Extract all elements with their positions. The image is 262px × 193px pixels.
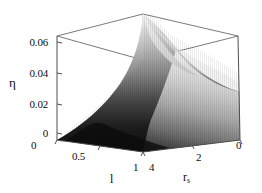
y-tick-label-4: 4 (149, 162, 154, 173)
z-axis-ticks (57, 42, 62, 134)
x-axis-title: l (110, 173, 113, 185)
x-tick-label-0: 0 (31, 140, 36, 151)
x-tick-label-0.5: 0.5 (72, 151, 85, 162)
z-tick-label-0.04: 0.04 (30, 68, 48, 79)
plot-canvas (0, 0, 262, 193)
y-axis-title: rs (183, 171, 190, 187)
y-axis-title-subscript: s (187, 176, 190, 185)
z-axis-title: η (9, 77, 16, 89)
z-tick-label-0.06: 0.06 (30, 37, 48, 48)
z-tick-label-0.02: 0.02 (30, 99, 48, 110)
surface-plot-figure: 0.06 0.04 0.02 0 η 0 0.5 1 l 4 2 0 rs (0, 0, 262, 193)
y-tick-label-0: 0 (236, 140, 241, 151)
x-tick-label-1: 1 (133, 162, 138, 173)
surface-mesh (50, 10, 250, 160)
z-tick-label-0: 0 (43, 128, 48, 139)
y-tick-label-2: 2 (196, 152, 201, 163)
